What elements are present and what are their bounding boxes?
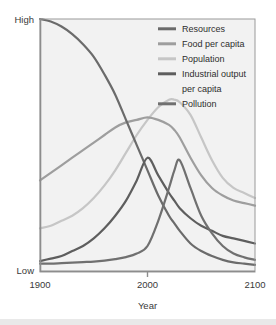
x-axis-title: Year	[138, 300, 157, 311]
x-tick-label-1900: 1900	[29, 279, 50, 290]
legend-label-2: Population	[182, 54, 225, 64]
x-tick-label-2000: 2000	[137, 279, 158, 290]
page-bottom-strip	[0, 319, 276, 325]
y-axis-high-label: High	[14, 14, 34, 25]
legend-label-4: Pollution	[182, 99, 217, 109]
x-tick-label-2100: 2100	[244, 279, 265, 290]
legend-label-1: Food per capita	[182, 39, 245, 49]
legend-label-0: Resources	[182, 24, 226, 34]
legend-label-3-line2: per capita	[182, 84, 222, 94]
chart-canvas: High Low 1900 2000 2100 Year ResourcesFo…	[0, 0, 276, 325]
y-axis-low-label: Low	[17, 265, 35, 276]
legend-label-3: Industrial output	[182, 69, 247, 79]
limits-to-growth-chart: High Low 1900 2000 2100 Year ResourcesFo…	[0, 0, 276, 325]
